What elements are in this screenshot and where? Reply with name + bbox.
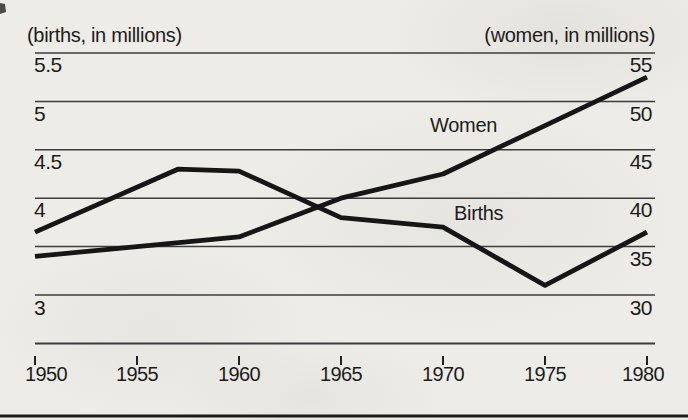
xtick-1980: 1980 <box>608 364 678 384</box>
scan-artifact <box>0 3 6 14</box>
xtick-1970: 1970 <box>408 364 478 384</box>
right-ytick-45: 45 <box>630 151 652 172</box>
right-ytick-50: 50 <box>630 103 652 124</box>
xtick-1965: 1965 <box>306 364 376 384</box>
xtick-1955: 1955 <box>102 364 172 384</box>
births-line <box>35 169 647 285</box>
xtick-1975: 1975 <box>510 364 580 384</box>
left-ytick-5: 5 <box>34 103 45 124</box>
right-ytick-30: 30 <box>630 297 652 318</box>
chart-figure: (births, in millions) (women, in million… <box>0 0 688 420</box>
right-axis-title: (women, in millions) <box>484 25 655 45</box>
left-ytick-4: 4 <box>34 199 45 220</box>
left-axis-title: (births, in millions) <box>27 25 182 45</box>
chart-canvas <box>0 0 688 420</box>
women-series-label: Women <box>430 115 497 135</box>
left-ytick-3: 3 <box>34 297 45 318</box>
births-series-label: Births <box>454 203 503 223</box>
right-ytick-40: 40 <box>630 199 652 220</box>
left-ytick-5p5: 5.5 <box>34 54 62 75</box>
women-line <box>35 77 647 256</box>
xtick-1950: 1950 <box>11 364 81 384</box>
xtick-1960: 1960 <box>204 364 274 384</box>
left-ytick-4p5: 4.5 <box>34 151 62 172</box>
right-ytick-35: 35 <box>630 248 652 269</box>
right-ytick-55: 55 <box>630 54 652 75</box>
